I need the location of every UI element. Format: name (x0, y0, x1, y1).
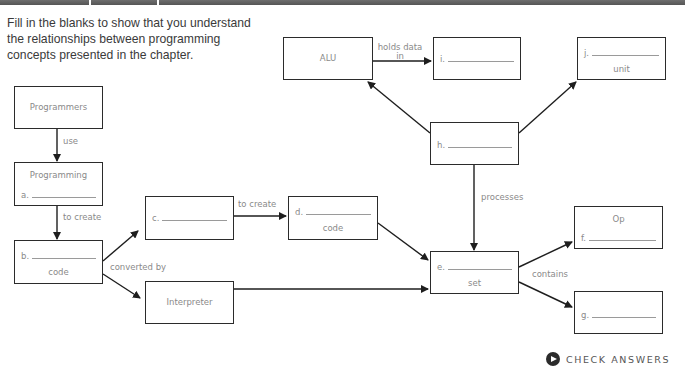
box-op: Op f. (574, 206, 663, 249)
blank-letter: c. (152, 213, 159, 223)
box-c: c. (145, 196, 234, 240)
label-contains: contains (532, 270, 568, 279)
box-title: Programming (15, 170, 102, 180)
box-g: g. (574, 291, 663, 334)
blank-line[interactable] (448, 139, 512, 148)
box-e-set: e. set (430, 251, 519, 294)
box-title: Programmers (15, 102, 102, 112)
label-holds-data-in: holds data in (376, 43, 424, 61)
blank-e[interactable]: e. (437, 261, 512, 272)
blank-j[interactable]: j. (584, 47, 659, 58)
check-answers-label: CHECK ANSWERS (566, 354, 670, 365)
blank-letter: h. (437, 140, 445, 150)
blank-letter: g. (581, 310, 589, 320)
box-subtitle: set (431, 278, 518, 288)
blank-line[interactable] (32, 189, 96, 198)
blank-letter: e. (437, 262, 445, 272)
blank-letter: b. (21, 251, 29, 261)
blank-letter: j. (584, 48, 589, 58)
label-line: in (376, 52, 424, 61)
box-j-unit: j. unit (577, 37, 666, 80)
blank-letter: d. (295, 207, 303, 217)
box-title: Op (575, 214, 662, 224)
box-b-code: b. code (14, 240, 103, 284)
box-interpreter: Interpreter (145, 281, 234, 324)
box-d-code: d. code (288, 196, 378, 240)
blank-line[interactable] (592, 47, 659, 56)
box-subtitle: code (15, 267, 102, 277)
blank-i[interactable]: i. (440, 53, 514, 64)
blank-h[interactable]: h. (437, 139, 512, 150)
box-title: ALU (284, 53, 372, 63)
blank-letter: f. (581, 233, 586, 243)
blank-d[interactable]: d. (295, 206, 371, 217)
blank-a[interactable]: a. (21, 189, 96, 200)
blank-line[interactable] (162, 212, 227, 221)
blank-letter: i. (440, 54, 445, 64)
blank-letter: a. (21, 190, 29, 200)
box-alu: ALU (283, 37, 373, 80)
blank-f[interactable]: f. (581, 232, 656, 243)
blank-line[interactable] (448, 261, 512, 270)
blank-line[interactable] (448, 53, 514, 62)
blank-b[interactable]: b. (21, 250, 96, 261)
box-h: h. (430, 122, 519, 165)
box-programming: Programming a. (14, 162, 103, 206)
blank-line[interactable] (592, 309, 656, 318)
box-subtitle: unit (578, 64, 665, 74)
box-title: Interpreter (146, 297, 233, 307)
blank-line[interactable] (306, 206, 371, 215)
blank-line[interactable] (589, 232, 656, 241)
blank-g[interactable]: g. (581, 309, 656, 320)
box-i: i. (433, 37, 521, 80)
box-subtitle: code (289, 223, 377, 233)
check-answers-button[interactable]: CHECK ANSWERS (546, 352, 670, 366)
play-circle-icon (546, 352, 560, 366)
blank-line[interactable] (32, 250, 96, 259)
label-use: use (63, 137, 78, 146)
label-to-create: to create (238, 200, 276, 209)
label-to-create: to create (63, 213, 101, 222)
label-processes: processes (481, 193, 523, 202)
blank-c[interactable]: c. (152, 212, 227, 223)
box-programmers: Programmers (14, 86, 103, 129)
label-converted-by: converted by (110, 263, 166, 272)
